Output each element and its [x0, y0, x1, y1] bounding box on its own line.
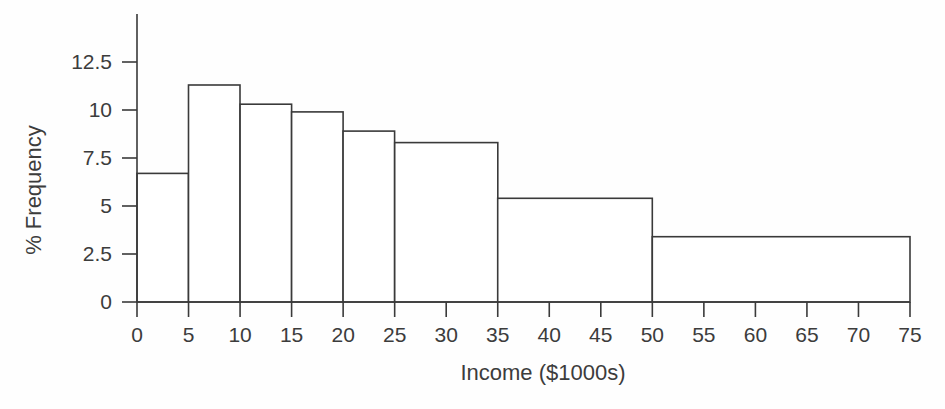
histogram-bar [343, 131, 395, 302]
x-tick-label: 55 [692, 323, 715, 346]
x-tick-label: 45 [589, 323, 612, 346]
x-tick-label: 60 [744, 323, 767, 346]
x-tick-label: 0 [131, 323, 143, 346]
x-tick-label: 20 [331, 323, 354, 346]
x-axis-title: Income ($1000s) [343, 360, 743, 386]
y-tick-label: 0 [100, 290, 112, 313]
histogram-bar [189, 85, 241, 302]
histogram-bar [395, 143, 498, 302]
histogram-bar [498, 198, 653, 302]
y-axis-title: % Frequency [21, 125, 47, 255]
x-tick-label: 70 [847, 323, 870, 346]
x-tick-label: 65 [795, 323, 818, 346]
histogram-figure: 02.557.51012.505101520253035404550556065… [0, 0, 945, 409]
histogram-bar [652, 237, 910, 302]
histogram-plot: 02.557.51012.505101520253035404550556065… [0, 0, 945, 409]
x-tick-label: 30 [435, 323, 458, 346]
x-tick-label: 35 [486, 323, 509, 346]
x-tick-label: 75 [898, 323, 921, 346]
histogram-bar [137, 173, 189, 302]
y-tick-label: 10 [89, 98, 112, 121]
x-tick-label: 40 [538, 323, 561, 346]
x-tick-label: 10 [228, 323, 251, 346]
x-tick-label: 15 [280, 323, 303, 346]
x-tick-label: 5 [183, 323, 195, 346]
y-tick-label: 12.5 [71, 50, 112, 73]
histogram-bar [292, 112, 344, 302]
y-tick-label: 7.5 [83, 146, 112, 169]
x-tick-label: 25 [383, 323, 406, 346]
y-tick-label: 2.5 [83, 242, 112, 265]
y-tick-label: 5 [100, 194, 112, 217]
x-tick-label: 50 [641, 323, 664, 346]
histogram-bar [240, 104, 292, 302]
